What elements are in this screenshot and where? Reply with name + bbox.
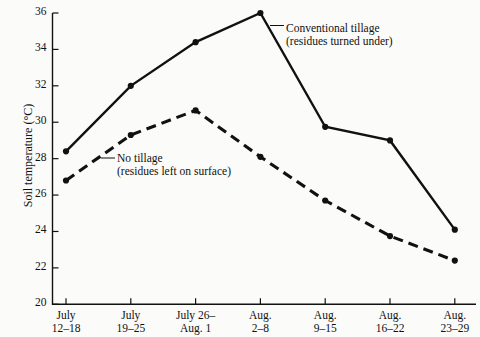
y-axis-tick-label: 20 xyxy=(21,296,47,308)
data-point-marker xyxy=(322,124,328,130)
data-point-marker xyxy=(387,137,393,143)
y-axis-ticks xyxy=(53,13,59,304)
x-axis-tick-label: Aug.23–29 xyxy=(415,309,480,335)
data-point-marker xyxy=(322,197,328,203)
x-axis-tick-label-line: Aug. xyxy=(415,309,480,322)
chart-series-conventional-tillage xyxy=(63,10,458,233)
series-line xyxy=(66,13,455,230)
data-point-marker xyxy=(452,227,458,233)
data-point-marker xyxy=(257,10,263,16)
annotation-notillage-line2: (residues left on surface) xyxy=(117,165,231,178)
y-axis-tick-label: 26 xyxy=(21,187,47,199)
annotation-no-tillage: No tillage (residues left on surface) xyxy=(117,152,231,178)
data-point-marker xyxy=(193,107,199,113)
annotation-conventional-tillage: Conventional tillage (residues turned un… xyxy=(286,22,393,48)
chart-series-no-tillage xyxy=(63,107,458,263)
x-axis-ticks xyxy=(66,298,455,304)
data-point-marker xyxy=(63,177,69,183)
y-axis-tick-label: 30 xyxy=(21,114,47,126)
x-axis-tick-label-line: 23–29 xyxy=(415,322,480,335)
y-axis-tick-label: 28 xyxy=(21,151,47,163)
y-axis-tick-label: 24 xyxy=(21,223,47,235)
data-point-marker xyxy=(128,83,134,89)
y-axis-tick-label: 32 xyxy=(21,78,47,90)
data-point-marker xyxy=(452,258,458,264)
data-point-marker xyxy=(128,132,134,138)
y-axis-tick-label: 34 xyxy=(21,41,47,53)
annotation-conventional-line1: Conventional tillage xyxy=(286,22,393,35)
data-point-marker xyxy=(387,233,393,239)
chart-figure: Soil temperature (°C) 202224262830323436… xyxy=(0,0,480,337)
data-point-marker xyxy=(63,148,69,154)
annotation-conventional-line2: (residues turned under) xyxy=(286,35,393,48)
data-point-marker xyxy=(193,39,199,45)
chart-plot-area xyxy=(0,0,480,337)
y-axis-tick-label: 22 xyxy=(21,260,47,272)
data-point-marker xyxy=(257,154,263,160)
chart-series-layer xyxy=(63,10,458,264)
annotation-notillage-line1: No tillage xyxy=(117,152,231,165)
y-axis-tick-label: 36 xyxy=(21,5,47,17)
series-line xyxy=(66,110,455,260)
